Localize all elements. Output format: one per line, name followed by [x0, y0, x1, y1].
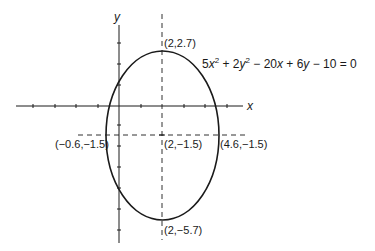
point-label-center: (2,−1.5) [164, 139, 202, 150]
eq-term: − 10 = 0 [309, 57, 356, 71]
y-axis [117, 25, 121, 243]
y-axis-label: y [114, 11, 120, 23]
ellipse-equation: 5x2 + 2y2 − 20x + 6y − 10 = 0 [202, 58, 357, 70]
eq-coef: 5 [202, 57, 209, 71]
point-label-left: (−0.6,−1.5) [55, 139, 109, 150]
point-label-bottom: (2,−5.7) [164, 225, 202, 236]
x-axis [16, 104, 243, 108]
eq-term: + 2 [219, 57, 239, 71]
point-label-right: (4.6,−1.5) [220, 139, 267, 150]
eq-term: + 6 [283, 57, 303, 71]
x-axis-label: x [247, 100, 253, 112]
eq-term: − 20 [250, 57, 277, 71]
point-label-top: (2,2.7) [164, 38, 196, 49]
